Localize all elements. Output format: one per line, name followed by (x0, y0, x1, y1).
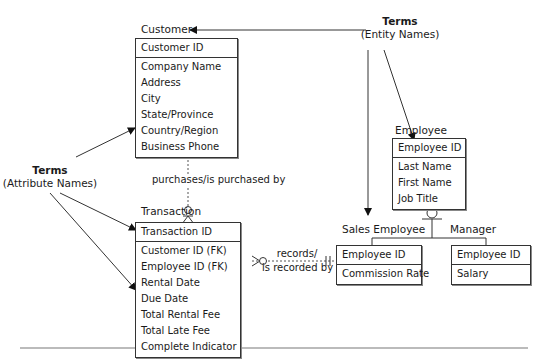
employee-entity[interactable]: Employee ID Last Name First Name Job Tit… (392, 138, 466, 210)
relationship-label-line2: is recorded by (262, 262, 332, 274)
relationship-label-line1: records/ (262, 248, 332, 260)
transaction-attribute: Total Rental Fee (141, 307, 235, 323)
customer-primary-key: Customer ID (136, 39, 237, 58)
customer-attribute: State/Province (141, 107, 232, 123)
customer-entity[interactable]: Customer ID Company Name Address City St… (135, 38, 238, 158)
transaction-attribute: Total Late Fee (141, 323, 235, 339)
entity-terms-title: Terms (340, 15, 460, 28)
customer-attribute: City (141, 91, 232, 107)
employee-entity-name: Employee (395, 124, 447, 136)
transaction-attribute: Employee ID (FK) (141, 259, 235, 275)
transaction-attribute: Customer ID (FK) (141, 243, 235, 259)
sales-employee-primary-key: Employee ID (337, 246, 421, 265)
attribute-names-annotation: Terms (Attribute Names) (0, 164, 100, 190)
customer-transaction-relationship-label: purchases/is purchased by (152, 174, 285, 186)
transaction-attribute: Complete Indicator (141, 339, 235, 355)
employee-attribute: Job Title (398, 191, 460, 207)
employee-primary-key: Employee ID (393, 139, 465, 158)
sales-employee-entity-name: Sales Employee (342, 223, 425, 235)
transaction-primary-key: Transaction ID (136, 223, 240, 242)
customer-attribute: Company Name (141, 59, 232, 75)
manager-entity[interactable]: Employee ID Salary (451, 245, 531, 285)
manager-entity-name: Manager (450, 223, 496, 235)
employee-attribute: Last Name (398, 159, 460, 175)
entity-terms-subtitle: (Entity Names) (340, 28, 460, 41)
attribute-terms-subtitle: (Attribute Names) (0, 177, 100, 190)
customer-attribute: Country/Region (141, 123, 232, 139)
sales-employee-entity[interactable]: Employee ID Commission Rate (336, 245, 422, 285)
manager-attribute: Salary (457, 266, 525, 282)
entity-names-annotation: Terms (Entity Names) (340, 15, 460, 41)
customer-attribute: Address (141, 75, 232, 91)
customer-attribute: Business Phone (141, 139, 232, 155)
transaction-attribute: Due Date (141, 291, 235, 307)
manager-primary-key: Employee ID (452, 246, 530, 265)
sales-employee-attribute: Commission Rate (342, 266, 416, 282)
transaction-attribute: Rental Date (141, 275, 235, 291)
attribute-terms-title: Terms (0, 164, 100, 177)
transaction-entity[interactable]: Transaction ID Customer ID (FK) Employee… (135, 222, 241, 358)
transaction-sales-relationship-label: records/ is recorded by (262, 248, 332, 274)
customer-entity-name: Customer (141, 23, 192, 35)
transaction-entity-name: Transaction (141, 205, 201, 217)
employee-attribute: First Name (398, 175, 460, 191)
